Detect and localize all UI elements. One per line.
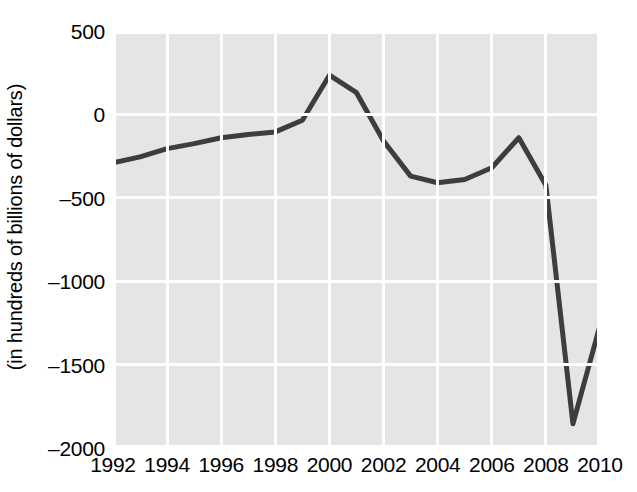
gridline-horizontal bbox=[113, 445, 600, 448]
y-axis-tick-label: 0 bbox=[33, 104, 105, 125]
line-chart-figure: (in hundreds of billions of dollars) 500… bbox=[0, 0, 637, 492]
x-axis-tick-label: 2008 bbox=[519, 452, 573, 477]
y-axis-title: (in hundreds of billions of dollars) bbox=[0, 3, 30, 451]
gridline-vertical bbox=[328, 31, 331, 448]
x-axis-tick-label: 1998 bbox=[248, 452, 302, 477]
data-series-line bbox=[113, 31, 600, 448]
x-axis-tick-label: 2000 bbox=[302, 452, 356, 477]
x-axis-tick-label: 2010 bbox=[573, 452, 627, 477]
x-axis-tick-label: 1996 bbox=[194, 452, 248, 477]
gridline-vertical bbox=[597, 31, 600, 448]
gridline-horizontal bbox=[113, 196, 600, 199]
y-axis-tick-label: –500 bbox=[33, 188, 105, 209]
gridline-horizontal bbox=[113, 280, 600, 283]
y-axis-tick-label: 500 bbox=[33, 21, 105, 42]
y-axis-tick-labels: 5000–500–1000–1500–2000 bbox=[33, 0, 105, 492]
y-axis-tick-label: –1000 bbox=[33, 271, 105, 292]
plot-area bbox=[113, 31, 600, 448]
x-axis-tick-label: 1994 bbox=[140, 452, 194, 477]
gridline-vertical bbox=[436, 31, 439, 448]
x-axis-tick-label: 2002 bbox=[357, 452, 411, 477]
gridline-vertical bbox=[274, 31, 277, 448]
gridline-vertical bbox=[166, 31, 169, 448]
x-axis-tick-label: 1992 bbox=[86, 452, 140, 477]
gridline-horizontal bbox=[113, 363, 600, 366]
y-axis-tick-label: –1500 bbox=[33, 355, 105, 376]
x-axis-tick-label: 2004 bbox=[411, 452, 465, 477]
gridline-horizontal bbox=[113, 113, 600, 116]
x-axis-tick-labels: 1992199419961998200020022004200620082010 bbox=[113, 452, 633, 484]
gridline-vertical bbox=[220, 31, 223, 448]
gridline-vertical bbox=[490, 31, 493, 448]
gridline-vertical bbox=[382, 31, 385, 448]
x-axis-tick-label: 2006 bbox=[465, 452, 519, 477]
gridline-horizontal bbox=[113, 31, 600, 34]
gridline-vertical bbox=[544, 31, 547, 448]
gridline-vertical bbox=[113, 31, 116, 448]
